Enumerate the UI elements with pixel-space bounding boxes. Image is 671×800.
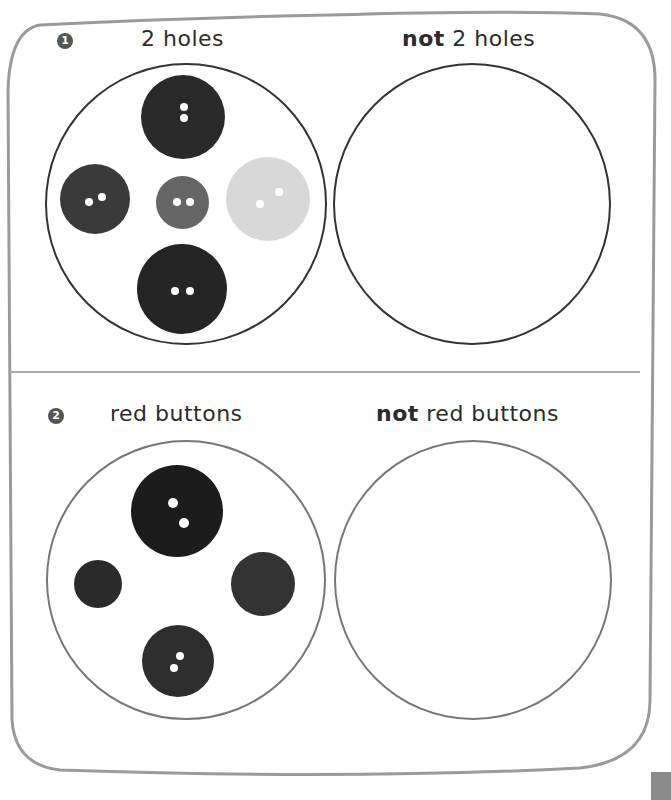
right-label-not-red-buttons: not red buttons: [376, 401, 559, 426]
button-icon-red-right: [231, 552, 295, 616]
right-label-not-2-holes: not 2 holes: [402, 26, 535, 51]
button-icon-gray-center: [156, 176, 209, 229]
page-corner-tab: [651, 772, 671, 800]
button-icon-light-right: [226, 157, 310, 241]
button-icon-black-bottom: [137, 244, 227, 334]
sort-circle-not-red-buttons[interactable]: [334, 440, 612, 720]
exercise-number-2: 2: [48, 408, 64, 424]
sort-circle-not-2-holes[interactable]: [333, 63, 611, 345]
left-label-2-holes: 2 holes: [141, 26, 224, 51]
button-icon-dark-left: [60, 164, 130, 234]
exercise-number-1: 1: [57, 33, 73, 49]
button-icon-red-bottom: [142, 625, 214, 697]
left-label-red-buttons: red buttons: [110, 401, 243, 426]
button-icon-red-top: [131, 465, 223, 557]
button-icon-red-left: [74, 560, 122, 608]
